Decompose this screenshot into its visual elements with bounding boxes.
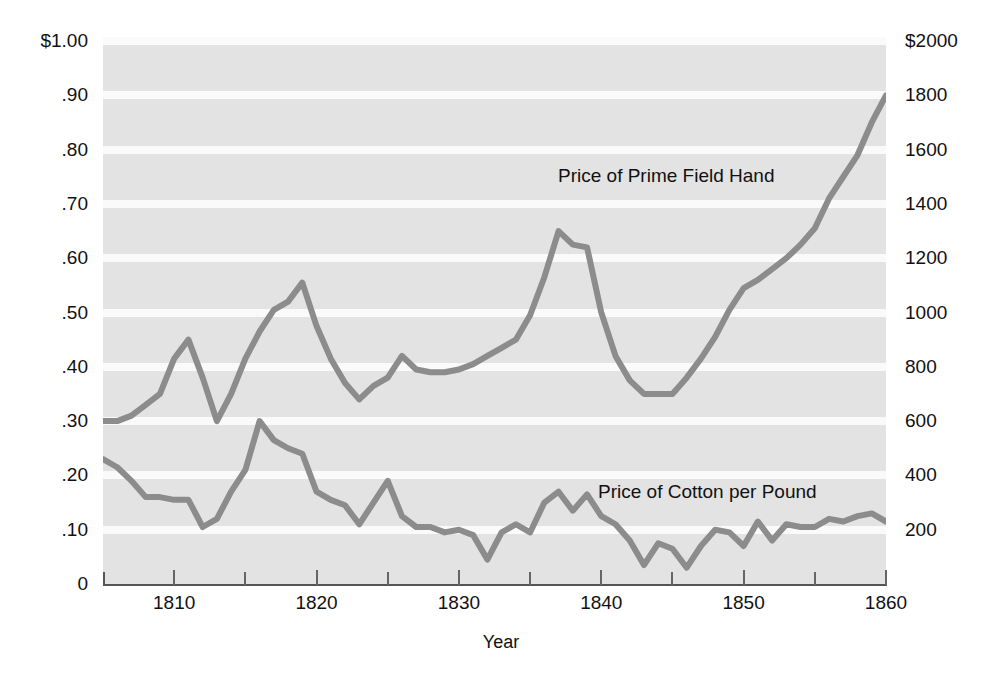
x-axis-major-tick [173, 570, 175, 585]
y-axis-left-tick-label: .50 [62, 303, 88, 322]
x-axis-minor-tick [814, 572, 816, 585]
y-axis-left-tick-label: .20 [62, 465, 88, 484]
x-axis-tick-label: 1830 [438, 593, 480, 612]
plot-area [103, 41, 886, 584]
y-axis-right-tick-label: 1800 [905, 85, 947, 104]
x-axis-line [103, 584, 887, 586]
y-axis-right-tick-label: 200 [905, 520, 937, 539]
chart-series-svg [103, 41, 886, 584]
x-axis-major-tick [743, 570, 745, 585]
annotation-price-of-prime-field-hand: Price of Prime Field Hand [558, 166, 774, 185]
x-axis-minor-tick [387, 572, 389, 585]
annotation-price-of-cotton-per-pound: Price of Cotton per Pound [598, 482, 817, 501]
x-axis-minor-tick [529, 572, 531, 585]
x-axis-tick-label: 1850 [722, 593, 764, 612]
chart-figure: Price of Prime Field Hand Price of Cotto… [0, 0, 1002, 684]
x-axis-title: Year [0, 632, 1002, 653]
y-axis-left-end-cap [103, 572, 105, 585]
x-axis-tick-label: 1840 [580, 593, 622, 612]
x-axis-major-tick [316, 570, 318, 585]
x-axis-tick-label: 1820 [295, 593, 337, 612]
y-axis-right-tick-label: $2000 [905, 31, 958, 50]
x-axis-tick-label: 1810 [153, 593, 195, 612]
y-axis-left-tick-label: $1.00 [40, 31, 88, 50]
y-axis-left-tick-label: .60 [62, 248, 88, 267]
y-axis-right-tick-label: 1000 [905, 303, 947, 322]
x-axis-major-tick [458, 570, 460, 585]
y-axis-right-tick-label: 1200 [905, 248, 947, 267]
y-axis-left-tick-label: .90 [62, 85, 88, 104]
y-axis-right-tick-label: 1600 [905, 140, 947, 159]
y-axis-left-tick-label: .40 [62, 357, 88, 376]
y-axis-right-tick-label: 1400 [905, 194, 947, 213]
x-axis-major-tick [885, 570, 887, 585]
y-axis-left-tick-label: .80 [62, 140, 88, 159]
x-axis-minor-tick [244, 572, 246, 585]
y-axis-right-tick-label: 400 [905, 465, 937, 484]
x-axis-major-tick [600, 570, 602, 585]
x-axis-minor-tick [671, 572, 673, 585]
y-axis-right-tick-label: 600 [905, 411, 937, 430]
y-axis-left-tick-label: .10 [62, 520, 88, 539]
x-axis-tick-label: 1860 [865, 593, 907, 612]
y-axis-left-tick-label: .70 [62, 194, 88, 213]
series-line-price-of-prime-field-hand [103, 95, 886, 421]
y-axis-right-tick-label: 800 [905, 357, 937, 376]
y-axis-left-tick-label: .30 [62, 411, 88, 430]
y-axis-left-tick-label: 0 [77, 574, 88, 593]
